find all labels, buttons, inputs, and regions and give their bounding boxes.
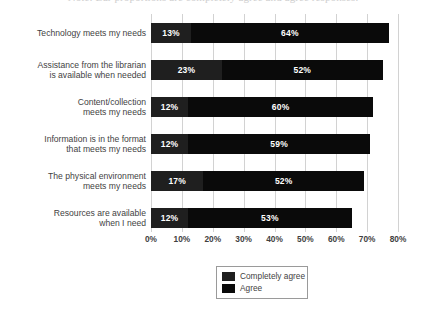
x-tick-label: 30% [235,234,252,244]
gridline-10 [182,14,183,232]
x-axis: 0%10%20%30%40%50%60%70%80% [151,232,398,248]
bar-row: Information is in the formatthat meets m… [151,134,398,154]
legend-item[interactable]: Agree [222,284,302,293]
bar-segment-2[interactable]: 59% [188,134,370,154]
bar-value-label: 53% [261,214,279,223]
stacked-bar[interactable]: 17%52% [151,171,364,191]
bar-row: Assistance from the librarianis availabl… [151,60,398,80]
bar-value-label: 12% [161,103,179,112]
bar-row: Technology meets my needs13%64% [151,23,398,43]
x-tick-label: 10% [174,234,191,244]
category-label-line: Content/collection [0,97,146,108]
bar-value-label: 59% [270,140,288,149]
stacked-bar[interactable]: 13%64% [151,23,389,43]
bar-segment-2[interactable]: 64% [191,23,389,43]
category-label: Content/collectionmeets my needs [0,97,146,118]
bar-segment-1[interactable]: 12% [151,97,188,117]
legend-label: Agree [240,284,262,292]
x-tick-label: 0% [145,234,157,244]
bar-value-label: 52% [293,66,311,75]
stacked-bar[interactable]: 12%60% [151,97,373,117]
bar-segment-2[interactable]: 52% [203,171,364,191]
stacked-bar[interactable]: 12%53% [151,208,352,228]
category-label-line: Resources are available [0,208,146,219]
bar-value-label: 23% [178,66,196,75]
bar-row: The physical environmentmeets my needs17… [151,171,398,191]
gridline-80 [398,14,399,232]
category-label-line: is available when needed [0,70,146,81]
stacked-bar[interactable]: 12%59% [151,134,370,154]
gridline-30 [244,14,245,232]
bar-value-label: 60% [272,103,290,112]
category-label: Resources are availablewhen I need [0,208,146,229]
plot-area: Technology meets my needs13%64%Assistanc… [151,14,398,232]
legend-item[interactable]: Completely agree [222,272,302,281]
gridline-60 [336,14,337,232]
category-label: The physical environmentmeets my needs [0,171,146,192]
stacked-bar-chart: Technology meets my needs13%64%Assistanc… [0,0,426,320]
category-label-line: when I need [0,218,146,229]
bar-row: Content/collectionmeets my needs12%60% [151,97,398,117]
legend-label: Completely agree [240,272,305,280]
legend-swatch-icon [222,272,235,281]
bar-segment-1[interactable]: 12% [151,208,188,228]
bar-segment-2[interactable]: 53% [188,208,352,228]
category-label-line: Information is in the format [0,134,146,145]
bar-value-label: 64% [281,29,299,38]
bar-value-label: 12% [161,140,179,149]
category-label-line: Assistance from the librarian [0,60,146,71]
bar-segment-1[interactable]: 17% [151,171,203,191]
bar-segment-2[interactable]: 60% [188,97,373,117]
x-tick-label: 40% [266,234,283,244]
x-tick-label: 80% [390,234,407,244]
bar-value-label: 17% [168,177,186,186]
x-tick-label: 50% [297,234,314,244]
category-label-line: that meets my needs [0,144,146,155]
gridline-0 [151,14,152,232]
stacked-bar[interactable]: 23%52% [151,60,383,80]
x-tick-label: 20% [204,234,221,244]
legend-swatch-icon [222,284,235,293]
gridline-70 [367,14,368,232]
x-tick-label: 70% [359,234,376,244]
chart-legend: Completely agreeAgree [216,266,308,299]
category-label-line: Technology meets my needs [0,28,146,39]
category-label-line: The physical environment [0,171,146,182]
bar-segment-1[interactable]: 13% [151,23,191,43]
gridline-40 [275,14,276,232]
bar-segment-1[interactable]: 23% [151,60,222,80]
x-tick-label: 60% [328,234,345,244]
category-label: Information is in the formatthat meets m… [0,134,146,155]
bar-value-label: 12% [161,214,179,223]
category-label: Technology meets my needs [0,28,146,39]
bar-segment-2[interactable]: 52% [222,60,383,80]
category-label: Assistance from the librarianis availabl… [0,60,146,81]
gridline-50 [305,14,306,232]
bar-segment-1[interactable]: 12% [151,134,188,154]
category-label-line: meets my needs [0,181,146,192]
bar-value-label: 13% [162,29,180,38]
bar-row: Resources are availablewhen I need12%53% [151,208,398,228]
bar-value-label: 52% [275,177,293,186]
category-label-line: meets my needs [0,107,146,118]
gridline-20 [213,14,214,232]
